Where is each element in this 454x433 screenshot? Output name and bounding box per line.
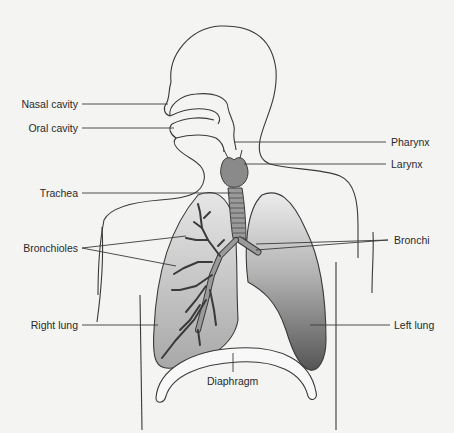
left-lung-shape xyxy=(246,193,326,370)
label-diaphragm: Diaphragm xyxy=(207,375,258,387)
label-larynx: Larynx xyxy=(391,158,423,170)
anatomy-illustration xyxy=(0,0,454,433)
label-bronchioles: Bronchioles xyxy=(2,242,78,254)
larynx-shape xyxy=(221,158,248,188)
label-right-lung: Right lung xyxy=(2,319,78,331)
label-pharynx: Pharynx xyxy=(391,136,430,148)
label-oral-cavity: Oral cavity xyxy=(2,122,78,134)
label-bronchi: Bronchi xyxy=(394,234,430,246)
label-trachea: Trachea xyxy=(2,187,78,199)
label-nasal-cavity: Nasal cavity xyxy=(2,98,78,110)
right-lung-shape xyxy=(154,193,238,369)
label-left-lung: Left lung xyxy=(394,319,434,331)
respiratory-system-diagram: Nasal cavity Oral cavity Trachea Bronchi… xyxy=(0,0,454,433)
